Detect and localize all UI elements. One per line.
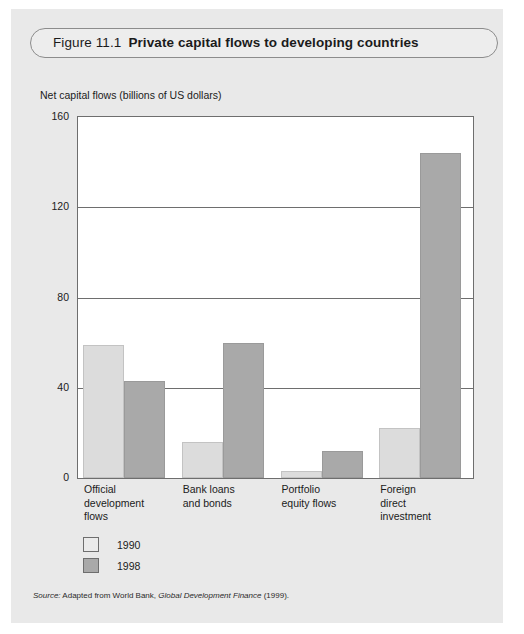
legend-item-1998: 1998: [83, 555, 140, 576]
legend: 19901998: [83, 534, 140, 576]
bar-1990-3: [379, 428, 420, 478]
category-label-2: Portfolio equity flows: [282, 483, 337, 510]
y-tick-label-40: 40: [57, 381, 69, 393]
legend-swatch-1990: [83, 537, 99, 552]
y-axis-tick-labels: 04080120160: [25, 116, 69, 477]
y-tick-label-0: 0: [63, 471, 69, 483]
bars-layer: [78, 117, 473, 478]
bar-1998-2: [322, 451, 363, 478]
figure-title-label: Private capital flows to developing coun…: [128, 35, 418, 50]
y-tick-label-80: 80: [57, 291, 69, 303]
legend-label-1998: 1998: [117, 560, 140, 572]
y-axis-title: Net capital flows (billions of US dollar…: [40, 89, 221, 101]
y-tick-label-160: 160: [51, 110, 69, 122]
category-label-0: Official development flows: [84, 483, 144, 524]
source-year: (1999).: [264, 591, 289, 600]
page-title: Figure 11.1Private capital flows to deve…: [53, 35, 419, 50]
figure-title-box: Figure 11.1Private capital flows to deve…: [30, 28, 498, 58]
bar-1990-0: [83, 345, 124, 478]
category-label-3: Foreign direct investment: [380, 483, 431, 524]
figure-panel: Figure 11.1Private capital flows to deve…: [11, 9, 503, 623]
source-body: Adapted from World Bank,: [62, 591, 156, 600]
bar-1998-3: [420, 153, 461, 478]
legend-item-1990: 1990: [83, 534, 140, 555]
bar-1998-0: [124, 381, 165, 478]
source-prefix: Source:: [33, 591, 61, 600]
bar-1990-2: [281, 471, 322, 478]
legend-swatch-1998: [83, 558, 99, 573]
bar-1990-1: [182, 442, 223, 478]
legend-label-1990: 1990: [117, 539, 140, 551]
plot-area: [77, 116, 474, 479]
bar-1998-1: [223, 343, 264, 478]
source-publication: Global Development Finance: [158, 591, 261, 600]
category-label-1: Bank loans and bonds: [183, 483, 235, 510]
figure-number: Figure 11.1: [53, 35, 121, 50]
source-note: Source: Adapted from World Bank, Global …: [33, 591, 289, 600]
y-tick-label-120: 120: [51, 200, 69, 212]
